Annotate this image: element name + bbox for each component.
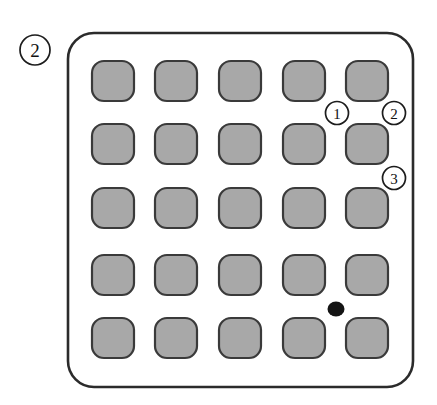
keypad-cell-r2-c1[interactable] [92,124,134,164]
keypad-cell-r3-c5[interactable] [346,188,388,228]
callout-label-lead-1: 1 [333,106,341,122]
keypad-cell-r5-c2[interactable] [155,318,197,358]
callout-label-lead-3: 3 [390,171,398,187]
keypad-cell-r1-c4[interactable] [283,61,325,101]
keypad-cell-r1-c3[interactable] [219,61,261,101]
keypad-cell-r1-c5[interactable] [346,61,388,101]
keypad-cell-r4-c4[interactable] [283,255,325,295]
keypad-cell-r5-c1[interactable] [92,318,134,358]
keypad-cell-r5-c4[interactable] [283,318,325,358]
keypad-cell-r2-c2[interactable] [155,124,197,164]
keypad-cell-r3-c1[interactable] [92,188,134,228]
black-dot-icon [328,302,345,317]
callout-label-figure-number: 2 [30,40,40,61]
keypad-cell-r1-c2[interactable] [155,61,197,101]
keypad-cell-r4-c1[interactable] [92,255,134,295]
keypad-cell-r5-c5[interactable] [346,318,388,358]
keypad-cell-r2-c5[interactable] [346,124,388,164]
keypad-cell-r4-c3[interactable] [219,255,261,295]
callout-figure-number: 2 [20,35,50,65]
keypad-cell-r2-c4[interactable] [283,124,325,164]
black-dot-marker [328,302,345,317]
figure-root: 2123 [0,0,437,405]
keypad-cell-r5-c3[interactable] [219,318,261,358]
keypad-cell-r1-c1[interactable] [92,61,134,101]
keypad-cell-r4-c2[interactable] [155,255,197,295]
figure-canvas: 2123 [0,0,437,405]
keypad-cell-r3-c2[interactable] [155,188,197,228]
keypad-cell-r4-c5[interactable] [346,255,388,295]
callout-label-lead-2: 2 [390,106,398,122]
keypad-cell-r2-c3[interactable] [219,124,261,164]
keypad-cell-r3-c3[interactable] [219,188,261,228]
keypad-cell-r3-c4[interactable] [283,188,325,228]
